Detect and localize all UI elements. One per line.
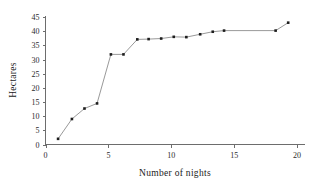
x-tick-label: 15 xyxy=(230,151,238,160)
series-line-hectares xyxy=(58,23,288,139)
y-tick-label: 45 xyxy=(32,13,40,22)
series-markers-hectares xyxy=(57,21,290,140)
y-tick-label: 30 xyxy=(32,56,40,65)
x-tick-label: 0 xyxy=(44,151,48,160)
y-tick-label: 35 xyxy=(32,41,40,50)
data-point-marker xyxy=(96,102,99,105)
data-point-marker xyxy=(57,138,60,141)
y-tick-label: 0 xyxy=(36,141,40,150)
line-chart: 051015202530354045 05101520 Hectares Num… xyxy=(0,0,320,191)
x-axis-ticks: 05101520 xyxy=(44,145,302,160)
data-point-marker xyxy=(185,36,188,39)
y-tick-label: 40 xyxy=(32,27,40,36)
x-tick-label: 10 xyxy=(167,151,175,160)
data-point-marker xyxy=(172,36,175,39)
y-tick-label: 5 xyxy=(36,126,40,135)
x-axis-title: Number of nights xyxy=(139,168,211,178)
data-point-marker xyxy=(160,37,163,40)
y-tick-label: 20 xyxy=(32,84,40,93)
y-axis-title: Hectares xyxy=(8,62,18,98)
data-point-marker xyxy=(71,118,74,121)
y-tick-label: 15 xyxy=(32,98,40,107)
data-point-marker xyxy=(110,53,113,56)
data-point-marker xyxy=(199,33,202,36)
data-point-marker xyxy=(147,38,150,41)
chart-figure: 051015202530354045 05101520 Hectares Num… xyxy=(0,0,320,191)
x-tick-label: 20 xyxy=(293,151,301,160)
y-tick-label: 25 xyxy=(32,70,40,79)
data-point-marker xyxy=(122,53,125,56)
data-point-marker xyxy=(136,38,139,41)
y-tick-label: 10 xyxy=(32,112,40,121)
data-point-marker xyxy=(83,107,86,110)
x-tick-label: 5 xyxy=(106,151,110,160)
data-point-marker xyxy=(223,29,226,32)
y-axis-ticks: 051015202530354045 xyxy=(32,13,46,150)
data-point-marker xyxy=(211,30,214,33)
data-point-marker xyxy=(287,21,290,24)
data-point-marker xyxy=(274,29,277,32)
